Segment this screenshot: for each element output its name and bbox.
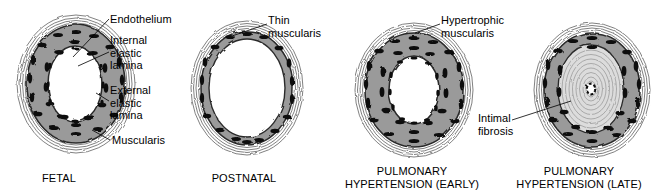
label-endothelium: Endothelium — [110, 13, 172, 26]
caption-ph-late-line2: HYPERTENSION (LATE) — [516, 178, 642, 190]
lumen — [209, 39, 285, 137]
panel-postnatal: Thinmuscularis POSTNATAL — [170, 0, 330, 196]
label-intimal-fibrosis-line2: fibrosis — [478, 125, 513, 137]
label-external-elastic-lamina-line3: lamina — [110, 109, 143, 121]
label-intimal-fibrosis: Intimalfibrosis — [478, 112, 513, 137]
ph-early-vessel-illustration — [352, 20, 477, 160]
caption-ph-early-line1: PULMONARY — [377, 165, 447, 177]
caption-ph-early-line2: HYPERTENSION (EARLY) — [345, 178, 479, 190]
caption-postnatal: POSTNATAL — [170, 172, 318, 185]
label-internal-elastic-lamina-line3: lamina — [110, 59, 143, 71]
label-hypertrophic-muscularis: Hypertrophicmuscularis — [441, 14, 504, 39]
caption-fetal-line1: FETAL — [42, 172, 76, 184]
label-internal-elastic-lamina: Internalelasticlamina — [110, 34, 147, 72]
panel-pulmonary-hypertension-late: Intimalfibrosis PULMONARYHYPERTENSION (L… — [496, 0, 662, 196]
internal-elastic-lamina-ring — [389, 56, 439, 124]
panel-pulmonary-hypertension-early: Hypertrophicmuscularis PULMONARYHYPERTEN… — [330, 0, 496, 196]
postnatal-vessel-illustration — [188, 18, 308, 158]
caption-postnatal-line1: POSTNATAL — [212, 172, 277, 184]
label-internal-elastic-lamina-line2: elastic — [110, 47, 142, 59]
caption-ph-late: PULMONARYHYPERTENSION (LATE) — [496, 165, 662, 190]
label-thin-muscularis-line2: muscularis — [268, 27, 321, 39]
caption-fetal: FETAL — [0, 172, 118, 185]
label-hypertrophic-muscularis-line1: Hypertrophic — [441, 14, 504, 26]
label-hypertrophic-muscularis-line2: muscularis — [441, 27, 494, 39]
label-external-elastic-lamina: Externalelasticlamina — [110, 84, 151, 122]
label-external-elastic-lamina-line2: elastic — [110, 97, 142, 109]
label-intimal-fibrosis-line1: Intimal — [478, 112, 511, 124]
label-muscularis: Muscularis — [112, 134, 165, 147]
label-internal-elastic-lamina-line1: Internal — [110, 34, 147, 46]
label-thin-muscularis-line1: Thin — [268, 14, 290, 26]
caption-ph-early: PULMONARYHYPERTENSION (EARLY) — [326, 165, 498, 190]
internal-elastic-lamina-ring — [48, 46, 102, 122]
caption-ph-late-line1: PULMONARY — [544, 165, 614, 177]
vascular-remodeling-figure: Endothelium Internalelasticlamina Extern… — [0, 0, 662, 196]
ph-late-vessel-illustration — [532, 20, 654, 160]
panel-fetal: Endothelium Internalelasticlamina Extern… — [0, 0, 170, 196]
label-thin-muscularis: Thinmuscularis — [268, 14, 321, 39]
pinpoint-lumen — [587, 84, 595, 95]
label-external-elastic-lamina-line1: External — [110, 84, 151, 96]
